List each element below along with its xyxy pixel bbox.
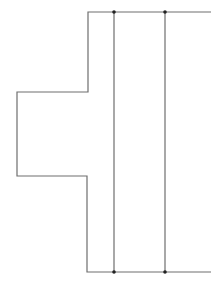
- junction-dot-4: [163, 270, 167, 274]
- junction-dot-3: [112, 270, 116, 274]
- junction-dot-2: [163, 10, 167, 14]
- vertical-lines: [114, 12, 165, 272]
- junction-dot-1: [112, 10, 116, 14]
- junction-dots: [112, 10, 167, 274]
- line-diagram: [0, 0, 223, 288]
